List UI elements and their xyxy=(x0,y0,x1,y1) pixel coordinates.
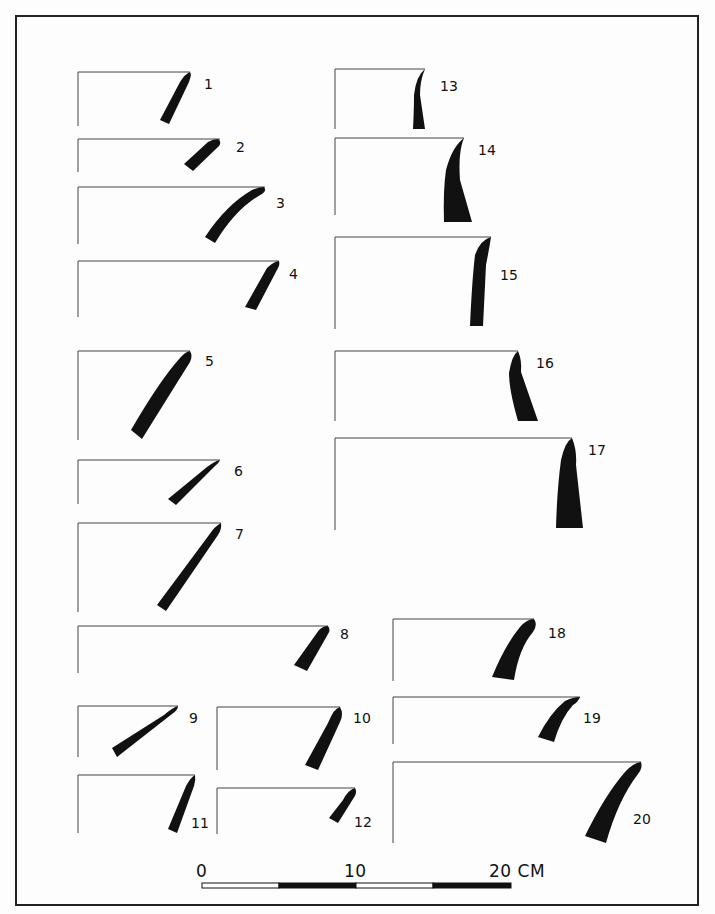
profile-label: 16 xyxy=(536,356,554,370)
profile-label: 3 xyxy=(276,196,285,210)
profile-label: 15 xyxy=(500,268,518,282)
profile-3-axis xyxy=(78,187,265,244)
scale-bar xyxy=(202,883,511,888)
profile-label: 2 xyxy=(236,140,245,154)
profile-16-axis xyxy=(335,351,518,421)
profile-label: 5 xyxy=(205,354,214,368)
profile-6-shape xyxy=(168,460,220,505)
profile-8-shape xyxy=(294,626,330,671)
profile-15-axis xyxy=(335,237,491,329)
profile-13-axis xyxy=(335,69,425,129)
profile-2-shape xyxy=(184,139,220,171)
profile-label: 14 xyxy=(478,143,496,157)
profile-label: 10 xyxy=(353,711,371,725)
scale-label-0: 0 xyxy=(196,863,207,880)
profile-8-axis xyxy=(78,626,328,673)
profile-12-shape xyxy=(329,788,356,823)
profile-4-axis xyxy=(78,261,279,317)
profile-20-shape xyxy=(585,762,642,843)
rim-profiles-drawing xyxy=(0,0,715,914)
scale-label-10: 10 xyxy=(344,863,367,880)
profile-12-axis xyxy=(217,788,355,834)
profile-19-shape xyxy=(538,697,580,742)
profile-9-shape xyxy=(112,706,178,757)
profile-label: 17 xyxy=(588,443,606,457)
profile-1-shape xyxy=(160,72,191,124)
profile-label: 11 xyxy=(191,816,209,830)
profile-4-shape xyxy=(245,261,279,310)
profile-9-axis xyxy=(78,706,178,757)
profile-10-shape xyxy=(305,707,342,770)
profile-7-shape xyxy=(157,523,221,611)
profile-15-shape xyxy=(470,237,491,326)
profile-5-shape xyxy=(131,351,192,439)
scale-label-20cm: 20 CM xyxy=(489,863,545,880)
profile-3-shape xyxy=(205,187,265,243)
profile-label: 4 xyxy=(289,267,298,281)
profile-label: 12 xyxy=(354,815,372,829)
profile-label: 13 xyxy=(440,79,458,93)
profile-16-shape xyxy=(509,351,538,421)
profile-label: 1 xyxy=(204,77,213,91)
profile-label: 7 xyxy=(235,527,244,541)
profile-18-shape xyxy=(492,619,536,680)
profile-label: 18 xyxy=(548,626,566,640)
profile-17-axis xyxy=(335,438,572,530)
profile-label: 9 xyxy=(189,711,198,725)
profile-label: 6 xyxy=(234,464,243,478)
profile-label: 19 xyxy=(583,711,601,725)
profile-14-shape xyxy=(444,138,472,222)
profile-7-axis xyxy=(78,523,221,612)
profile-label: 8 xyxy=(340,627,349,641)
profile-label: 20 xyxy=(633,812,651,826)
profile-13-shape xyxy=(413,69,425,129)
profile-17-shape xyxy=(556,438,583,528)
